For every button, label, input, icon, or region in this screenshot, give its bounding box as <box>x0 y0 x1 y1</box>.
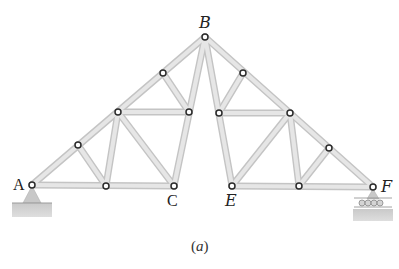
joint-f <box>370 184 376 190</box>
label-a: A <box>13 176 25 193</box>
joint-a <box>29 182 35 188</box>
joint-b <box>202 34 208 40</box>
label-e: E <box>224 191 237 210</box>
joint-e <box>229 183 235 189</box>
label-f: F <box>380 177 393 196</box>
truss-diagram: A B C E F (a) <box>0 0 399 269</box>
truss-members-outline <box>32 37 373 187</box>
label-c: C <box>167 192 178 209</box>
label-b: B <box>198 13 211 32</box>
joint-c <box>171 183 177 189</box>
figure-caption: (a) <box>191 238 209 255</box>
